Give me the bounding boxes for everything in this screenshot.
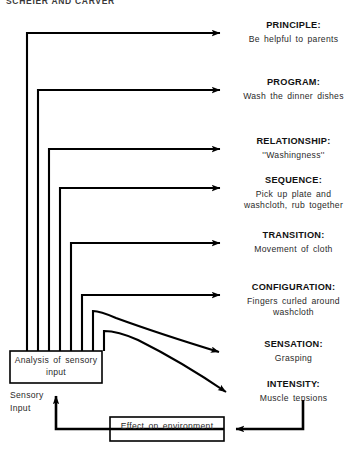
level-description: Be helpful to parents [232, 34, 355, 46]
connector-relationship [49, 149, 220, 351]
level-title: PROGRAM: [232, 77, 355, 88]
level-description: Wash the dinner dishes [232, 91, 355, 103]
level-relationship: RELATIONSHIP: ''Washingness'' [232, 136, 355, 161]
level-principle: PRINCIPLE: Be helpful to parents [232, 20, 355, 45]
level-description: Grasping [232, 353, 355, 365]
level-title: CONFIGURATION: [232, 282, 355, 293]
analysis-box-label: Analysis of sensory input [14, 355, 98, 378]
connector-principle [27, 33, 220, 351]
level-title: PRINCIPLE: [232, 20, 355, 31]
level-title: RELATIONSHIP: [232, 136, 355, 147]
connector-program [38, 90, 220, 351]
level-description: Muscle tensions [232, 393, 355, 405]
level-description: Pick up plate and washcloth, rub togethe… [232, 189, 355, 212]
level-description: ''Washingness'' [232, 150, 355, 162]
level-title: INTENSITY: [232, 379, 355, 390]
level-sequence: SEQUENCE: Pick up plate and washcloth, r… [232, 175, 355, 212]
level-title: SENSATION: [232, 339, 355, 350]
level-sensation: SENSATION: Grasping [232, 339, 355, 364]
sensory-input-label: Sensory Input [10, 389, 68, 415]
level-title: TRANSITION: [232, 230, 355, 241]
effect-box-label: Effect on environment [113, 421, 221, 433]
level-description: Movement of cloth [232, 244, 355, 256]
connector-intensity [104, 331, 226, 392]
figure-canvas: SCHEIER AND CARVER PRINCIPLE: Be helpful… [0, 0, 357, 465]
level-configuration: CONFIGURATION: Fingers curled around was… [232, 282, 355, 319]
level-description: Fingers curled around washcloth [232, 296, 355, 319]
connector-output-to-effect [236, 400, 303, 429]
connector-configuration [82, 295, 220, 351]
level-intensity: INTENSITY: Muscle tensions [232, 379, 355, 404]
level-program: PROGRAM: Wash the dinner dishes [232, 77, 355, 102]
level-title: SEQUENCE: [232, 175, 355, 186]
level-transition: TRANSITION: Movement of cloth [232, 230, 355, 255]
